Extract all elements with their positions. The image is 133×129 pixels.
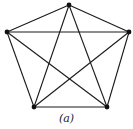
- edge-left-bottom-right: [7, 32, 107, 107]
- complete-graph-k5: [0, 0, 133, 129]
- graph-edges: [7, 5, 129, 107]
- vertex-top: [67, 3, 72, 8]
- edge-top-left: [7, 5, 69, 32]
- edge-right-bottom-left: [34, 32, 129, 107]
- edge-top-bottom-right: [69, 5, 107, 107]
- vertex-left: [5, 30, 10, 35]
- figure-caption: (a): [0, 112, 133, 126]
- edge-right-bottom-right: [107, 32, 129, 107]
- vertex-bottom-right: [105, 105, 110, 110]
- vertex-bottom-left: [32, 105, 37, 110]
- vertex-right: [127, 30, 132, 35]
- graph-vertices: [5, 3, 132, 110]
- edge-left-bottom-left: [7, 32, 34, 107]
